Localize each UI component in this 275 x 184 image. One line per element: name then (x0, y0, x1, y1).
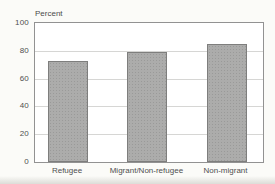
y-tick-label-20: 20 (2, 129, 29, 138)
y-tick-label-100: 100 (2, 18, 29, 27)
category-label-migrant-non-refugee: Migrant/Non-refugee (110, 166, 183, 175)
y-tick-label-80: 80 (2, 46, 29, 55)
scan-shading (0, 176, 275, 184)
bar-migrant-non-refugee (127, 52, 167, 162)
plot-area (34, 22, 264, 163)
y-tick-label-60: 60 (2, 74, 29, 83)
y-tick-label-0: 0 (2, 157, 29, 166)
y-axis-title: Percent (35, 9, 63, 18)
bar-non-migrant (207, 44, 247, 162)
category-label-refugee: Refugee (52, 166, 82, 175)
y-tick-label-40: 40 (2, 101, 29, 110)
category-label-non-migrant: Non-migrant (204, 166, 248, 175)
bar-refugee (48, 61, 88, 162)
bar-chart-figure: Percent 020406080100 RefugeeMigrant/Non-… (0, 0, 275, 184)
